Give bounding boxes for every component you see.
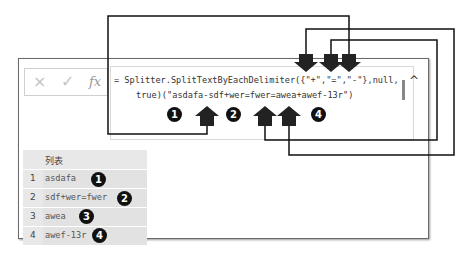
confirm-icon[interactable]: ✓ xyxy=(61,72,74,91)
badge-4-formula: 4 xyxy=(311,107,326,122)
table-row[interactable]: 1 asdafa xyxy=(23,169,147,188)
formula-bar-buttons: × ✓ fx xyxy=(24,68,108,96)
formula-line-1: = Splitter.SplitTextByEachDelimiter({"+"… xyxy=(114,75,399,85)
table-row[interactable]: 4 awef-13r xyxy=(23,226,147,245)
scroll-up-icon[interactable]: ^ xyxy=(409,74,419,88)
badge-row-1: 1 xyxy=(91,172,106,187)
badge-1-formula: 1 xyxy=(167,107,182,122)
scrollbar-thumb[interactable] xyxy=(402,80,405,100)
fx-icon[interactable]: fx xyxy=(89,74,101,89)
column-header: 列表 xyxy=(23,150,147,169)
badge-2-formula: 2 xyxy=(226,107,241,122)
badge-row-4: 4 xyxy=(92,228,107,243)
badge-row-3: 3 xyxy=(79,209,94,224)
cancel-icon[interactable]: × xyxy=(33,72,46,91)
badge-row-2: 2 xyxy=(117,191,132,206)
formula-line-2: true)("asdafa-sdf+wer=fwer=awea+awef-13r… xyxy=(136,90,353,100)
